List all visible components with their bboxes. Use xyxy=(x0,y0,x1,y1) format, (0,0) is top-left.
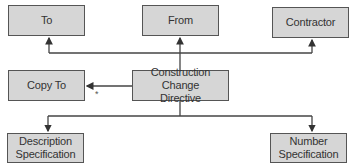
node-description-specification: Description Specification xyxy=(7,133,84,163)
node-construction-change-directive: Construction Change Directive xyxy=(132,70,229,101)
num-spec-line1: Number xyxy=(290,135,328,148)
node-to: To xyxy=(8,5,85,36)
node-from-label: From xyxy=(168,14,193,27)
node-copy-to-label: Copy To xyxy=(27,79,66,92)
node-contractor-label: Contractor xyxy=(286,16,335,29)
num-spec-line2: Specification xyxy=(279,148,339,161)
annotation-mark: * xyxy=(95,89,99,99)
node-copy-to: Copy To xyxy=(8,70,85,101)
node-from: From xyxy=(142,5,219,36)
desc-spec-line1: Description xyxy=(19,135,72,148)
node-contractor: Contractor xyxy=(272,7,349,38)
center-label-line1: Construction Change xyxy=(133,66,228,92)
node-to-label: To xyxy=(41,14,52,27)
center-label-line2: Directive xyxy=(160,92,201,105)
desc-spec-line2: Specification xyxy=(16,148,76,161)
node-number-specification: Number Specification xyxy=(270,133,347,163)
